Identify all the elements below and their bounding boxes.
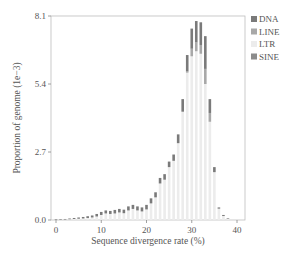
bar-segment-dna (77, 217, 80, 218)
bar-stack (82, 217, 85, 220)
bar-segment-ltr (213, 172, 216, 220)
bar-segment-ltr (222, 216, 225, 220)
bar-segment-dna (195, 21, 198, 42)
bar-segment-dna (145, 205, 148, 210)
bar-segment-ltr (73, 219, 76, 220)
bar-segment-ltr (163, 180, 166, 220)
bar-segment-ltr (82, 218, 85, 220)
bar-segment-ltr (86, 218, 89, 220)
bar-stack (132, 205, 135, 220)
bar-stack (59, 219, 62, 220)
bar-segment-dna (159, 178, 162, 184)
legend-item-ltr: LTR (251, 39, 275, 49)
bar-segment-dna (204, 36, 207, 69)
x-axis: 010203040 (54, 220, 242, 235)
bar-segment-dna (127, 206, 130, 210)
bar-segment-dna (104, 210, 107, 213)
bar-stack (68, 218, 71, 220)
bar-segment-dna (132, 205, 135, 209)
bar-segment-dna (181, 99, 184, 112)
legend-item-sine: SINE (251, 52, 280, 62)
bar-stack (150, 198, 153, 220)
bar-segment-dna (55, 219, 58, 220)
bar-segment-dna (177, 134, 180, 143)
y-axis-label: Proportion of genome (1e−3) (12, 62, 23, 173)
bar-segment-dna (168, 162, 171, 168)
bar-stack (222, 215, 225, 220)
legend-label: LTR (259, 39, 275, 49)
bar-segment-dna (109, 211, 112, 214)
bar-segment-dna (118, 209, 121, 213)
bar-segment-dna (154, 192, 157, 197)
bar-segment-ltr (181, 112, 184, 220)
bar-segment-ltr (123, 213, 126, 220)
bar-stack (100, 212, 103, 220)
bar-segment-ltr (145, 209, 148, 220)
bar-segment-dna (86, 216, 89, 218)
bar-segment-dna (222, 215, 225, 216)
x-tick-label: 30 (187, 225, 197, 235)
bar-stack (141, 207, 144, 220)
bar-segment-ltr (141, 211, 144, 220)
bar-segment-dna (172, 155, 175, 161)
bar-segment-line (209, 113, 212, 122)
bar-segment-line (204, 69, 207, 84)
bar-segment-ltr (195, 51, 198, 220)
bar-stack (204, 36, 207, 220)
bar-segment-dna (141, 207, 144, 211)
bar-segment-ltr (168, 167, 171, 220)
y-tick-label: 2.7 (35, 147, 47, 157)
bar-segment-ltr (200, 54, 203, 220)
bar-stack (209, 99, 212, 220)
bar-segment-ltr (204, 84, 207, 220)
bar-segment-dna (95, 214, 98, 217)
bar-segment-ltr (172, 161, 175, 220)
bar-stack (127, 206, 130, 220)
bar-segment-ltr (154, 197, 157, 220)
bar-segment-ltr (118, 212, 121, 220)
bar-stack (213, 167, 216, 220)
bars-group (55, 21, 230, 220)
bar-segment-dna (218, 207, 221, 208)
legend-swatch (251, 54, 257, 60)
bar-segment-ltr (104, 213, 107, 220)
bar-segment-dna (150, 198, 153, 203)
bar-segment-dna (59, 219, 62, 220)
bar-segment-line (195, 42, 198, 51)
bar-stack (177, 134, 180, 220)
legend-label: DNA (259, 14, 279, 24)
plot-frame (51, 16, 245, 220)
bar-stack (145, 205, 148, 220)
bar-segment-dna (114, 210, 117, 214)
bar-stack (136, 206, 139, 220)
bar-segment-ltr (227, 219, 230, 220)
bar-stack (159, 178, 162, 220)
bar-segment-ltr (132, 209, 135, 220)
bar-segment-ltr (209, 122, 212, 220)
bar-segment-ltr (109, 214, 112, 220)
bar-segment-ltr (91, 217, 94, 220)
bar-segment-ltr (159, 183, 162, 220)
bar-segment-ltr (150, 203, 153, 220)
bar-segment-dna (64, 219, 67, 220)
legend-swatch (251, 16, 257, 22)
bar-segment-ltr (190, 56, 193, 220)
bar-stack (195, 21, 198, 220)
bar-segment-dna (73, 218, 76, 219)
legend-item-dna: DNA (251, 14, 279, 24)
bar-segment-line (186, 71, 189, 72)
bar-stack (118, 209, 121, 220)
bar-segment-ltr (114, 213, 117, 220)
legend-swatch (251, 41, 257, 47)
bar-segment-dna (213, 167, 216, 172)
bar-segment-dna (209, 99, 212, 113)
bar-segment-dna (200, 22, 203, 45)
bar-segment-ltr (127, 210, 130, 220)
bar-stack (218, 207, 221, 220)
bar-segment-dna (190, 29, 193, 49)
x-tick-label: 20 (142, 225, 152, 235)
x-tick-label: 0 (54, 225, 59, 235)
bar-segment-dna (186, 55, 189, 71)
legend-label: LINE (259, 27, 280, 37)
bar-stack (200, 22, 203, 220)
